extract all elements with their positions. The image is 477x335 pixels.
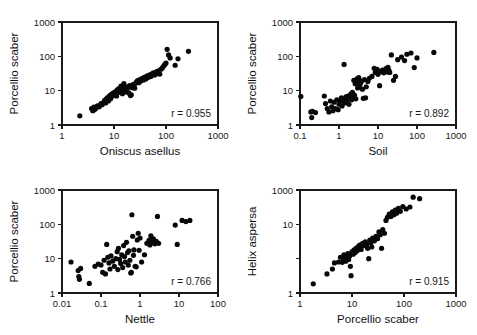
data-point bbox=[120, 265, 125, 270]
y-tick-label: 100 bbox=[39, 219, 55, 230]
data-point bbox=[382, 231, 387, 236]
panel-top-left: 11010010001101001000Oniscus asellusPorce… bbox=[0, 0, 238, 167]
y-axis-title: Helix aspersa bbox=[246, 206, 258, 276]
data-point bbox=[127, 258, 132, 263]
data-point bbox=[353, 96, 358, 101]
x-tick-label: 0.1 bbox=[293, 130, 306, 141]
data-point bbox=[377, 83, 382, 88]
data-point bbox=[336, 107, 341, 112]
data-point bbox=[134, 264, 139, 269]
panel-2-plot: 0.010.11101001101001000NettlePorcellio s… bbox=[0, 168, 238, 335]
data-point bbox=[407, 204, 412, 209]
data-point bbox=[324, 271, 329, 276]
panel-3-plot: 11010010001101000Porcellio scaberHelix a… bbox=[238, 168, 476, 335]
x-tick-label: 100 bbox=[409, 130, 425, 141]
x-tick-label: 1000 bbox=[445, 298, 466, 309]
data-point bbox=[311, 281, 316, 286]
data-point bbox=[129, 92, 134, 97]
y-tick-label: 10 bbox=[282, 85, 293, 96]
data-point bbox=[309, 115, 314, 120]
data-point bbox=[107, 266, 112, 271]
x-tick-label: 10 bbox=[109, 130, 120, 141]
data-point bbox=[68, 259, 73, 264]
y-tick-label: 1000 bbox=[34, 185, 55, 196]
data-point bbox=[366, 256, 371, 261]
data-point bbox=[156, 241, 161, 246]
data-point bbox=[131, 247, 136, 252]
y-axis-title: Porcellio scaber bbox=[246, 32, 258, 114]
data-point bbox=[155, 214, 160, 219]
y-tick-label: 100 bbox=[277, 51, 293, 62]
y-tick-label: 1 bbox=[50, 288, 55, 299]
data-point bbox=[398, 209, 403, 214]
data-point bbox=[323, 101, 328, 106]
x-tick-label: 0.01 bbox=[53, 298, 72, 309]
x-tick-label: 100 bbox=[158, 130, 174, 141]
data-point bbox=[175, 242, 180, 247]
data-point bbox=[126, 262, 131, 267]
x-tick-label: 100 bbox=[210, 298, 226, 309]
x-axis-title: Oniscus asellus bbox=[100, 145, 181, 157]
y-tick-label: 1 bbox=[288, 288, 293, 299]
data-point bbox=[77, 277, 82, 282]
data-point bbox=[78, 266, 83, 271]
data-point bbox=[348, 264, 353, 269]
data-point bbox=[298, 94, 303, 99]
data-point bbox=[411, 195, 416, 200]
panel-0-plot: 11010010001101001000Oniscus asellusPorce… bbox=[0, 0, 238, 167]
data-point bbox=[126, 248, 131, 253]
y-tick-label: 1000 bbox=[272, 17, 293, 28]
data-point bbox=[173, 223, 178, 228]
data-point bbox=[346, 102, 351, 107]
data-point bbox=[157, 71, 162, 76]
x-tick-label: 10 bbox=[373, 130, 384, 141]
data-point bbox=[175, 56, 180, 61]
panel-1-plot: 0.111010010001101001000SoilPorcellio sca… bbox=[238, 0, 476, 167]
data-point bbox=[412, 65, 417, 70]
x-tick-label: 1 bbox=[336, 130, 341, 141]
data-point bbox=[124, 240, 129, 245]
data-point bbox=[103, 271, 108, 276]
data-point bbox=[389, 52, 394, 57]
correlation-annotation: r = 0.915 bbox=[409, 276, 449, 287]
data-point bbox=[137, 248, 142, 253]
data-point bbox=[163, 60, 168, 65]
data-point bbox=[131, 253, 136, 258]
data-point bbox=[104, 242, 109, 247]
data-point bbox=[364, 84, 369, 89]
data-point bbox=[132, 86, 137, 91]
data-point bbox=[129, 270, 134, 275]
y-tick-label: 1000 bbox=[34, 17, 55, 28]
data-point bbox=[77, 113, 82, 118]
panel-bottom-right: 11010010001101000Porcellio scaberHelix a… bbox=[238, 168, 476, 335]
y-tick-label: 1 bbox=[288, 120, 293, 131]
panel-top-right: 0.111010010001101001000SoilPorcellio sca… bbox=[238, 0, 476, 167]
y-axis-title: Porcellio scaber bbox=[8, 200, 20, 282]
data-point bbox=[115, 267, 120, 272]
data-point bbox=[402, 58, 407, 63]
data-point bbox=[387, 70, 392, 75]
data-point bbox=[417, 196, 422, 201]
panel-bottom-left: 0.010.11101001101001000NettlePorcellio s… bbox=[0, 168, 238, 335]
x-tick-label: 10 bbox=[347, 298, 358, 309]
data-point bbox=[108, 253, 113, 258]
data-point bbox=[136, 231, 141, 236]
data-point bbox=[165, 47, 170, 52]
data-point bbox=[408, 50, 413, 55]
data-point bbox=[186, 49, 191, 54]
x-tick-label: 0.1 bbox=[94, 298, 107, 309]
y-tick-label: 1 bbox=[50, 120, 55, 131]
x-tick-label: 1000 bbox=[207, 130, 228, 141]
x-axis-title: Soil bbox=[368, 145, 387, 157]
data-point bbox=[137, 235, 142, 240]
data-point bbox=[431, 50, 436, 55]
data-point bbox=[139, 259, 144, 264]
data-point bbox=[130, 234, 135, 239]
y-tick-label: 1000 bbox=[272, 185, 293, 196]
y-axis-title: Porcellio scaber bbox=[8, 32, 20, 114]
data-point bbox=[379, 246, 384, 251]
data-point bbox=[341, 62, 346, 67]
y-tick-label: 10 bbox=[44, 253, 55, 264]
x-axis-title: Porcellio scaber bbox=[337, 313, 419, 325]
data-point bbox=[363, 95, 368, 100]
